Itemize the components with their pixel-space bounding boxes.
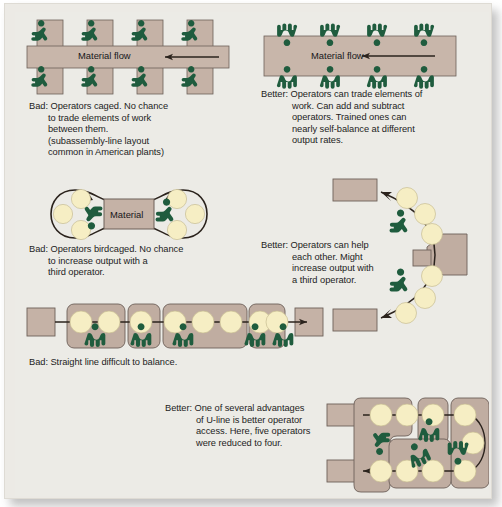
caption-straight-line-1: Bad: Straight line difficult to balance. xyxy=(29,357,177,369)
caption-birdcage-2: to increase output with a xyxy=(48,256,148,268)
figure-page: Material flow Bad: Operators caged. No c… xyxy=(0,0,502,507)
caption-shared-line-4: nearly self-balance at different xyxy=(292,124,415,136)
figure-frame: Material flow Bad: Operators caged. No c… xyxy=(4,3,492,499)
caption-u-arc-4: a third operator. xyxy=(292,275,356,287)
panel-u-line xyxy=(327,398,489,492)
caption-shared-line-3: operators. Trained ones can xyxy=(292,112,406,124)
caption-caged-line-2: to trade elements of work xyxy=(48,113,151,125)
caption-caged-line-1: Bad: Operators caged. No chance xyxy=(29,101,168,113)
caption-u-arc-2: each other. Might xyxy=(292,252,362,264)
material-box-label: Material xyxy=(110,209,143,220)
material-flow-label-shared: Material flow xyxy=(311,50,364,61)
caption-birdcage-3: third operator. xyxy=(48,267,105,279)
caption-birdcage-1: Bad: Operators birdcaged. No chance xyxy=(29,244,183,256)
caption-caged-line-4: (subassembly-line layout xyxy=(48,136,149,148)
material-flow-label-caged: Material flow xyxy=(78,50,131,61)
caption-u-line-2: of U-line is better operator xyxy=(196,415,302,427)
caption-u-line-1: Better: One of several advantages xyxy=(165,403,304,415)
caption-shared-line-5: output rates. xyxy=(292,135,343,147)
caption-shared-line-2: work. Can add and subtract xyxy=(292,101,404,113)
panel-straight-line xyxy=(27,304,323,348)
caption-caged-line-3: between them. xyxy=(48,124,108,136)
caption-u-line-3: access. Here, five operators xyxy=(196,426,310,438)
caption-shared-line-1: Better: Operators can trade elements of xyxy=(261,89,422,101)
caption-caged-line-5: common in American plants) xyxy=(48,147,164,159)
figure-canvas: Material flow Bad: Operators caged. No c… xyxy=(15,12,489,496)
caption-u-line-4: were reduced to four. xyxy=(196,438,282,450)
caption-u-arc-3: increase output with xyxy=(292,263,374,275)
caption-u-arc-1: Better: Operators can help xyxy=(261,240,369,252)
